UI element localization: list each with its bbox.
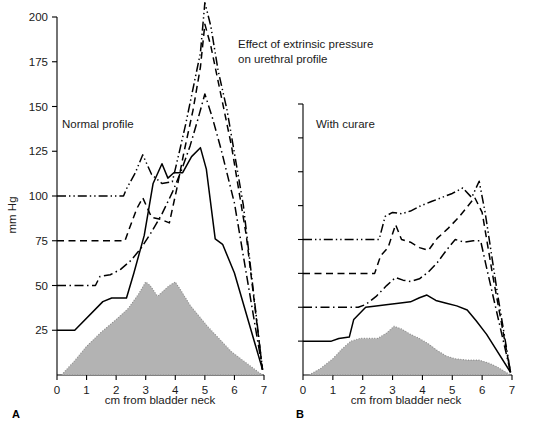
urethral-pressure-profile-chart: 255075100125150175200 01234567 Normal pr… (0, 0, 534, 430)
figure-container: 255075100125150175200 01234567 Normal pr… (0, 0, 534, 430)
panel-b-x-ticks (303, 375, 512, 380)
y-tick-label: 150 (29, 101, 48, 113)
figure-title-line-2: on urethral profile (238, 53, 328, 65)
panel-a-x-ticks (57, 375, 264, 380)
panel-b-x-axis-title: cm from bladder neck (351, 394, 462, 406)
y-tick-label: 100 (29, 190, 48, 202)
x-tick-label: 0 (54, 384, 60, 396)
y-tick-label: 50 (35, 280, 48, 292)
y-tick-label: 125 (29, 145, 48, 157)
panel-b: 01234567 With curare cm from bladder nec… (296, 104, 515, 420)
panel-b-shaded-profile (309, 326, 511, 375)
y-tick-label: 175 (29, 56, 48, 68)
y-axis-title: mm Hg (6, 196, 18, 233)
figure-title-line-1: Effect of extrinsic pressure (238, 38, 373, 50)
x-tick-label: 1 (83, 384, 89, 396)
y-tick-label: 25 (35, 324, 48, 336)
y-tick-label: 75 (35, 235, 48, 247)
figure-title: Effect of extrinsic pressure on urethral… (238, 38, 373, 65)
panel-b-caption: With curare (316, 118, 375, 130)
x-tick-label: 7 (261, 384, 267, 396)
x-tick-label: 0 (300, 384, 306, 396)
panel-b-y-ticks (298, 104, 303, 341)
panel-a-y-tick-labels: 255075100125150175200 (29, 11, 48, 336)
panel-a: 255075100125150175200 01234567 Normal pr… (6, 3, 267, 420)
panel-a-y-ticks (52, 17, 57, 330)
panel-a-shaded-profile (61, 282, 262, 375)
panel-a-letter: A (12, 408, 20, 420)
x-tick-label: 7 (509, 384, 515, 396)
x-tick-label: 6 (479, 384, 485, 396)
y-tick-label: 200 (29, 11, 48, 23)
x-tick-label: 1 (330, 384, 336, 396)
panel-a-x-axis-title: cm from bladder neck (105, 394, 216, 406)
x-tick-label: 6 (231, 384, 237, 396)
panel-a-caption: Normal profile (62, 118, 134, 130)
panel-b-letter: B (296, 408, 304, 420)
